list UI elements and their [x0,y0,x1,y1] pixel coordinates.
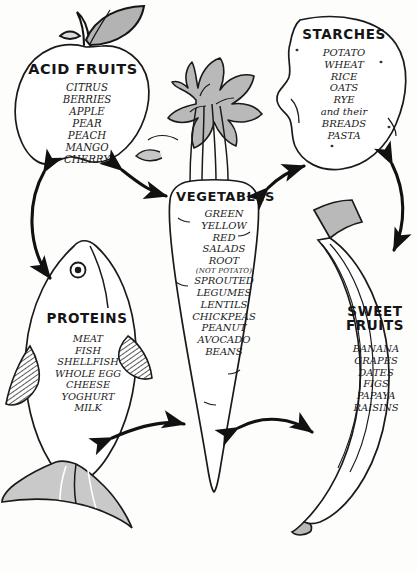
food-item: CHEESE [36,379,140,391]
food-item: RAISINS [340,402,412,414]
food-item: GRAPES [340,355,412,367]
food-item: YELLOW [172,220,276,232]
food-item: AVOCADO [172,334,276,346]
food-item: MEAT [36,333,140,345]
food-item: GREEN [172,208,276,220]
arrow-vegetables-starches [268,166,304,188]
food-item: PASTA [292,130,396,142]
food-item: SHELLFISH [36,356,140,368]
food-item: BERRIES [28,94,146,106]
arrow-vegetables-sweet-fruits [238,419,312,432]
food-item: POTATO [292,47,396,59]
group-list-vegetables: GREENYELLOWREDSALADSROOT(NOT POTATO)SPRO… [172,208,276,358]
group-title-acid-fruits: ACID FRUITS [22,62,144,77]
group-list-acid-fruits: CITRUSBERRIESAPPLEPEARPEACHMANGOCHERRY [28,82,146,166]
food-item: DATES [340,367,412,379]
food-item: FISH [36,345,140,357]
food-item: BEANS [172,346,276,358]
arrow-acid-fruits-proteins [32,172,50,278]
food-item: WHEAT [292,59,396,71]
food-item: WHOLE EGG [36,368,140,380]
group-list-starches: POTATOWHEATRICEOATSRYEand theirBREADSPAS… [292,47,396,141]
food-item: BANANA [340,343,412,355]
group-title-vegetables: VEGETABLES [176,190,272,203]
group-list-sweet-fruits: BANANAGRAPESDATESFIGSPAPAYARAISINS [340,343,412,414]
food-item: PAPAYA [340,390,412,402]
food-item: MANGO [28,142,146,154]
group-title-sweet-fruits: SWEET FRUITS [344,305,406,333]
food-item: YOGHURT [36,391,140,403]
food-item: PEANUT [172,322,276,334]
food-item: OATS [292,82,396,94]
arrow-starches-sweet-fruits [392,164,403,250]
food-item: SPROUTED [172,275,276,287]
chart-caption: FOODS CONNECTED BY AN ARROW COMBINE WELL… [0,545,418,571]
food-item: PEAR [28,118,146,130]
food-item: MILK [36,402,140,414]
food-item: RED [172,232,276,244]
food-item: LENTILS [172,299,276,311]
food-item: PEACH [28,130,146,142]
food-item: and their [292,106,396,118]
food-item: BREADS [292,118,396,130]
food-item: RYE [292,94,396,106]
food-item: CHERRY [28,154,146,166]
food-item: SALADS [172,243,276,255]
food-item: ROOT [172,255,276,267]
food-item: RICE [292,71,396,83]
group-title-proteins: PROTEINS [42,312,132,326]
food-combining-chart: ACID FRUITS CITRUSBERRIESAPPLEPEARPEACHM… [0,0,418,571]
food-item: CITRUS [28,82,146,94]
group-list-proteins: MEATFISHSHELLFISHWHOLE EGGCHEESEYOGHURTM… [36,333,140,414]
arrow-acid-fruits-vegetables [122,170,166,196]
food-item: CHICKPEAS [172,311,276,323]
food-item: (NOT POTATO) [172,267,276,275]
group-title-starches: STARCHES [290,28,398,42]
food-item: APPLE [28,106,146,118]
food-item: FIGS [340,378,412,390]
carrot-leaves [136,58,262,182]
food-item: LEGUMES [172,287,276,299]
